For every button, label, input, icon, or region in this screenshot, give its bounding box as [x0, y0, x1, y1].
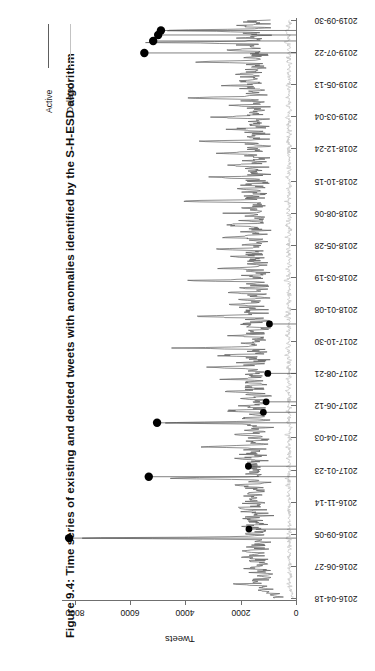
figure-root: { "figure": { "title": "Figure 9.4: Time…	[0, 0, 375, 671]
plot-area	[0, 0, 375, 671]
anomaly-marker[interactable]	[145, 473, 153, 481]
anomaly-marker[interactable]	[260, 409, 267, 416]
anomaly-marker[interactable]	[157, 26, 165, 34]
anomaly-marker[interactable]	[153, 419, 161, 427]
anomaly-marker[interactable]	[245, 463, 252, 470]
anomaly-marker[interactable]	[246, 526, 253, 533]
anomaly-marker[interactable]	[264, 370, 271, 377]
series-line-active	[82, 20, 283, 598]
anomaly-marker[interactable]	[140, 49, 148, 57]
anomaly-marker[interactable]	[266, 321, 273, 328]
anomaly-marker[interactable]	[263, 398, 270, 405]
anomaly-marker[interactable]	[65, 534, 73, 542]
series-line-deleted	[284, 20, 293, 598]
